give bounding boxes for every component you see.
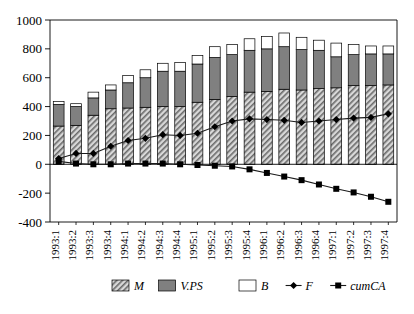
y-tick-label: 1000 [16,13,42,28]
bar-segment-vps [262,49,273,92]
bar-segment-b [383,46,394,54]
bar-segment-b [157,63,168,71]
bar-segment-b [88,92,99,98]
bar-segment-vps [53,104,64,126]
cumca-line-path [59,161,389,201]
bar-segment-m [227,96,238,164]
x-tick-label: 1994:4 [170,230,182,261]
bar-segment-vps [140,78,151,108]
cumca-marker [368,194,374,200]
legend-marker-f [290,282,297,289]
x-axis: 1993:11993:21993:31993:41994:11994:21994… [49,222,391,261]
bar-segment-b [71,104,82,107]
bar-segment-b [296,37,307,49]
legend-label-cumca: cumCA [350,279,386,293]
x-tick-label: 1995:4 [240,230,252,261]
bar-segment-m [279,89,290,164]
bar-segment-m [348,86,359,165]
cumca-marker [316,181,322,187]
legend-marker-cumca [335,283,341,289]
x-tick-label: 1993:2 [66,230,78,261]
bar-segment-b [366,46,377,54]
bar-segment-b [262,37,273,49]
legend-swatch-v-ps [159,280,176,291]
x-tick-label: 1997:2 [344,230,356,261]
stacked-bar-line-chart: 10008006004002000-200-4001993:11993:2199… [0,0,414,314]
bar-segment-vps [227,55,238,97]
cumca-marker [73,161,79,167]
cumca-marker [351,189,357,195]
bar-segment-b [209,47,220,58]
bar-segment-b [123,76,134,83]
cumca-marker [333,186,339,192]
bar-segment-m [383,85,394,164]
x-tick-label: 1995:3 [222,230,234,261]
x-tick-label: 1996:1 [257,230,269,261]
bar-segment-b [175,63,186,72]
bar-segment-vps [279,47,290,90]
x-tick-label: 1993:3 [83,230,95,261]
bar-segment-m [123,108,134,164]
chart-root: 10008006004002000-200-4001993:11993:2199… [0,0,414,314]
y-tick-label: 800 [23,41,43,56]
bar-segment-vps [175,71,186,106]
cumca-marker [281,174,287,180]
legend-label-m: M [133,279,145,293]
bar-segment-vps [296,50,307,90]
y-tick-label: -400 [18,215,42,230]
cumca-line [56,158,392,204]
plot-frame [50,20,397,222]
bar-segment-b [105,85,116,90]
x-tick-label: 1997:4 [378,230,390,261]
legend-swatch-b [239,280,256,291]
bar-segment-m [366,86,377,165]
bar-segment-vps [192,64,203,102]
cumca-marker [125,161,131,167]
x-tick-label: 1997:1 [326,230,338,261]
x-tick-label: 1993:1 [49,230,61,261]
bar-segment-vps [331,57,342,88]
bar-segment-vps [383,54,394,85]
y-tick-label: -200 [18,186,42,201]
bars-group [53,33,393,164]
y-tick-label: 400 [23,99,43,114]
x-tick-label: 1997:3 [361,230,373,261]
cumca-marker [177,161,183,167]
x-tick-label: 1996:4 [309,230,321,261]
bar-segment-b [192,55,203,64]
bar-segment-b [314,40,325,50]
bar-segment-vps [157,71,168,106]
y-tick-label: 200 [23,128,43,143]
bar-segment-vps [366,54,377,86]
x-tick-label: 1994:2 [135,230,147,261]
bar-segment-vps [123,83,134,108]
chart-legend: MV.PSBFcumCA [112,279,386,293]
bar-segment-b [244,39,255,51]
cumca-marker [299,177,305,183]
bar-segment-b [348,45,359,55]
cumca-marker [229,163,235,169]
cumca-marker [385,199,391,205]
legend-swatch-m [112,280,129,291]
bar-segment-vps [244,50,255,92]
legend-label-f: F [305,279,314,293]
cumca-marker [247,166,253,172]
bar-segment-b [331,43,342,57]
bar-segment-m [314,89,325,165]
legend-label-v-ps: V.PS [181,279,203,293]
y-axis: 10008006004002000-200-400 [16,13,50,230]
bar-segment-b [53,102,64,105]
bar-segment-vps [314,50,325,88]
cumca-marker [108,161,114,167]
cumca-marker [142,161,148,167]
bar-segment-vps [209,58,220,100]
cumca-marker [264,170,270,176]
x-tick-label: 1994:3 [153,230,165,261]
y-tick-label: 600 [23,70,43,85]
bar-segment-vps [348,55,359,86]
chart-canvas: 10008006004002000-200-4001993:11993:2199… [0,0,414,314]
cumca-marker [194,162,200,168]
cumca-marker [160,161,166,167]
x-tick-label: 1995:2 [205,230,217,261]
cumca-marker [212,163,218,169]
